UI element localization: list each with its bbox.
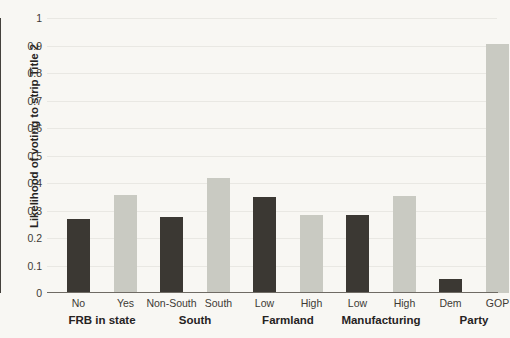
y-axis-tick-label: 0	[2, 287, 42, 299]
bar	[67, 219, 90, 293]
gridline	[47, 183, 497, 184]
x-axis-group-label: Manufacturing	[341, 314, 420, 326]
y-axis-tick-label: 0.9	[2, 40, 42, 52]
gridline	[47, 101, 497, 102]
plot-area	[47, 18, 497, 293]
y-axis-tick-label: 0.6	[2, 122, 42, 134]
gridline	[47, 128, 497, 129]
x-axis-category-label: GOP	[486, 297, 509, 309]
x-axis-group-label: South	[179, 314, 212, 326]
bar	[346, 215, 369, 293]
bar	[114, 195, 137, 293]
bar-chart: Likelihood of voting to strip Title 2 10…	[0, 0, 510, 338]
x-axis-group-label: Farmland	[262, 314, 314, 326]
gridline	[47, 73, 497, 74]
bar	[393, 196, 416, 293]
y-axis-tick-label: 1	[2, 12, 42, 24]
x-axis-category-label: Yes	[117, 297, 134, 309]
bar	[439, 279, 462, 293]
x-axis-category-label: High	[394, 297, 416, 309]
y-axis-tick-label: 0.2	[2, 232, 42, 244]
y-axis-tick-label: 0.5	[2, 150, 42, 162]
x-axis-category-label: High	[301, 297, 323, 309]
y-axis-tick-label: 0.4	[2, 177, 42, 189]
bar	[207, 178, 230, 294]
gridline	[47, 18, 497, 19]
x-axis-group-label: Party	[460, 314, 489, 326]
x-axis-line	[47, 292, 498, 293]
y-axis-tick-label: 0.3	[2, 205, 42, 217]
y-axis-tick-labels: 10.90.80.70.60.50.40.30.20.10	[0, 18, 42, 293]
bar	[300, 215, 323, 293]
x-axis-category-label: Low	[255, 297, 274, 309]
y-axis-tick-label: 0.8	[2, 67, 42, 79]
x-axis-group-label: FRB in state	[68, 314, 135, 326]
bar	[253, 197, 276, 293]
bar	[486, 44, 509, 293]
gridline	[47, 156, 497, 157]
y-axis-tick-label: 0.1	[2, 260, 42, 272]
gridline	[47, 46, 497, 47]
x-axis-category-label: Dem	[439, 297, 461, 309]
x-axis-category-label: Low	[348, 297, 367, 309]
bar	[160, 217, 183, 293]
y-axis-tick-label: 0.7	[2, 95, 42, 107]
y-axis-line	[0, 18, 1, 293]
x-axis-category-label: No	[72, 297, 85, 309]
x-axis-category-label: South	[205, 297, 232, 309]
x-axis-category-label: Non-South	[146, 297, 196, 309]
